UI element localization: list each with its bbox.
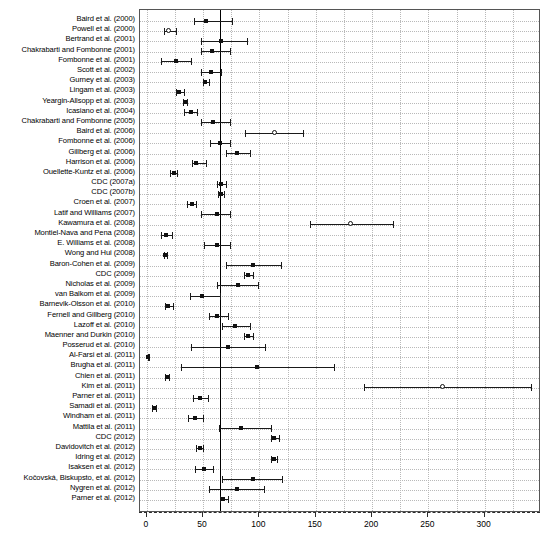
study-row [140, 475, 539, 484]
estimate-marker-square [202, 467, 206, 471]
study-label: Maenner and Durkin (2010) [45, 331, 135, 339]
estimate-marker-square [190, 202, 194, 206]
ci-upper-cap [184, 89, 185, 96]
ci-upper-cap [196, 201, 197, 208]
ci-lower-cap [194, 18, 195, 25]
estimate-marker-square [219, 192, 223, 196]
study-row [140, 47, 539, 56]
x-axis-tick-label: 200 [364, 519, 378, 529]
study-label: Harrison et al. (2006) [66, 158, 135, 166]
ci-upper-cap [393, 221, 394, 228]
study-label: Baird et al. (2006) [77, 127, 135, 135]
study-label: Icasiano et al. (2004) [66, 107, 135, 115]
study-label: Fombonne et al. (2001) [58, 56, 135, 64]
ci-upper-cap [167, 252, 168, 259]
study-row [140, 281, 539, 290]
ci-upper-cap [271, 425, 272, 432]
confidence-interval-line [219, 428, 271, 429]
ci-upper-cap [303, 130, 304, 137]
estimate-marker-square [210, 49, 214, 53]
study-label: Isaksen et al. (2012) [68, 463, 135, 471]
estimate-marker-square [215, 243, 219, 247]
study-label: Croen et al. (2007) [74, 198, 135, 206]
study-row [140, 57, 539, 66]
ci-lower-cap [201, 69, 202, 76]
x-axis-tick [315, 512, 316, 517]
ci-lower-cap [364, 384, 365, 391]
ci-upper-cap [156, 405, 157, 412]
study-label: Nygren et al. (2012) [70, 484, 135, 492]
estimate-marker-square [146, 355, 150, 359]
study-label: Fernell and Gillberg (2010) [47, 311, 135, 319]
study-label: Brugha et al. (2011) [70, 361, 135, 369]
study-label: Parner et al. (2012) [72, 494, 135, 502]
ci-lower-cap [161, 232, 162, 239]
study-label: Chakrabarti and Fombonne (2001) [22, 46, 135, 54]
estimate-marker-square [203, 80, 207, 84]
ci-upper-cap [232, 18, 233, 25]
ci-lower-cap [226, 150, 227, 157]
ci-upper-cap [279, 435, 280, 442]
study-row [140, 68, 539, 77]
ci-lower-cap [209, 486, 210, 493]
study-row [140, 37, 539, 46]
study-label: Kočovská, Biskupsto, et al. (2012) [24, 474, 135, 482]
x-axis: 050100150200250300 [139, 512, 540, 543]
ci-lower-cap [201, 211, 202, 218]
x-axis-line [139, 512, 540, 513]
confidence-interval-line [201, 41, 247, 42]
study-row [140, 302, 539, 311]
ci-upper-cap [230, 140, 231, 147]
estimate-marker-square [272, 436, 276, 440]
study-row [140, 129, 539, 138]
x-axis-tick-label: 100 [251, 519, 265, 529]
estimate-marker-square [172, 171, 176, 175]
estimate-marker-square [194, 161, 198, 165]
ci-lower-cap [161, 58, 162, 65]
ci-upper-cap [265, 344, 266, 351]
ci-lower-cap [193, 395, 194, 402]
estimate-marker-square [211, 120, 215, 124]
estimate-marker-square [215, 314, 219, 318]
ci-lower-cap [187, 201, 188, 208]
estimate-marker-circle [440, 384, 445, 389]
x-axis-tick-label: 50 [197, 519, 206, 529]
ci-lower-cap [245, 130, 246, 137]
study-label: van Balkom et al. (2009) [55, 290, 135, 298]
estimate-marker-square [164, 233, 168, 237]
ci-lower-cap [204, 242, 205, 249]
ci-lower-cap [201, 119, 202, 126]
study-row [140, 414, 539, 423]
study-row [140, 17, 539, 26]
study-row [140, 404, 539, 413]
estimate-marker-square [226, 345, 230, 349]
study-row [140, 444, 539, 453]
ci-upper-cap [226, 181, 227, 188]
ci-lower-cap [244, 333, 245, 340]
confidence-interval-line [201, 122, 230, 123]
study-row [140, 312, 539, 321]
study-label: Lazoff et al. (2010) [74, 321, 135, 329]
estimate-marker-square [272, 457, 276, 461]
confidence-interval-line [364, 387, 531, 388]
estimate-marker-square [236, 283, 240, 287]
study-row [140, 241, 539, 250]
study-label: Ouellette-Kuntz et al. (2006) [43, 168, 135, 176]
study-row [140, 455, 539, 464]
study-label: CDC (2009) [95, 270, 135, 278]
estimate-marker-square [221, 497, 225, 501]
estimate-marker-square [200, 294, 204, 298]
ci-upper-cap [228, 313, 229, 320]
study-row [140, 383, 539, 392]
ci-lower-cap [219, 425, 220, 432]
ci-lower-cap [222, 323, 223, 330]
ci-lower-cap [210, 140, 211, 147]
estimate-marker-square [209, 70, 213, 74]
study-row [140, 495, 539, 504]
ci-upper-cap [203, 445, 204, 452]
study-row [140, 322, 539, 331]
estimate-marker-square [177, 90, 181, 94]
study-row [140, 251, 539, 260]
ci-upper-cap [247, 38, 248, 45]
estimate-marker-square [189, 110, 193, 114]
